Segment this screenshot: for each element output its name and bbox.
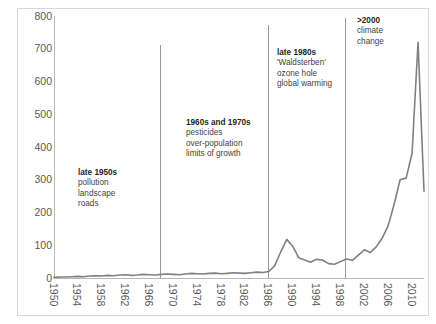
x-axis-tick-1994: 1994 bbox=[310, 283, 321, 294]
annotation-line: climate bbox=[357, 26, 384, 36]
annotation-1960s-1970s: 1960s and 1970spesticidesover-population… bbox=[186, 118, 251, 160]
annotation-heading: late 1980s bbox=[277, 48, 332, 58]
x-axis-tick-2006: 2006 bbox=[382, 283, 393, 294]
annotation-line: ozone hole bbox=[277, 69, 332, 79]
annotation-line: change bbox=[357, 37, 384, 47]
annotation-line: pollution bbox=[78, 178, 117, 188]
x-axis-tick-1998: 1998 bbox=[334, 283, 345, 294]
x-axis-tick-1950: 1950 bbox=[48, 283, 59, 294]
divider-1999 bbox=[345, 18, 346, 278]
chart-container: 8007006005004003002001000 19501954195819… bbox=[0, 0, 436, 324]
annotation-line: landscape bbox=[78, 189, 117, 199]
x-axis-tick-1982: 1982 bbox=[238, 283, 249, 294]
annotation-line: global warming bbox=[277, 79, 332, 89]
annotation-line: over-population bbox=[186, 139, 251, 149]
annotation-line: limits of growth bbox=[186, 149, 251, 159]
x-axis-tick-2002: 2002 bbox=[358, 283, 369, 294]
x-axis-tick-1962: 1962 bbox=[119, 283, 130, 294]
annotation-after-2000: >2000climatechange bbox=[357, 16, 384, 47]
divider-1986 bbox=[268, 25, 269, 278]
x-axis-tick-1966: 1966 bbox=[143, 283, 154, 294]
divider-1970 bbox=[160, 45, 161, 278]
annotation-line: roads bbox=[78, 199, 117, 209]
annotation-late-1980s: late 1980s'Waldsterben'ozone holeglobal … bbox=[277, 48, 332, 90]
annotation-late-1950s: late 1950spollutionlandscaperoads bbox=[78, 168, 117, 210]
x-axis-tick-1990: 1990 bbox=[286, 283, 297, 294]
x-axis-tick-2010: 2010 bbox=[406, 283, 417, 294]
annotation-heading: >2000 bbox=[357, 16, 384, 26]
annotation-line: pesticides bbox=[186, 128, 251, 138]
annotation-line: 'Waldsterben' bbox=[277, 58, 332, 68]
x-axis-tick-1974: 1974 bbox=[191, 283, 202, 294]
x-axis-tick-labels: 1950195419581962196619701974197819821986… bbox=[0, 0, 436, 324]
x-axis-tick-1954: 1954 bbox=[71, 283, 82, 294]
annotation-heading: late 1950s bbox=[78, 168, 117, 178]
x-axis-tick-1958: 1958 bbox=[95, 283, 106, 294]
x-axis-tick-1986: 1986 bbox=[262, 283, 273, 294]
x-axis-tick-1970: 1970 bbox=[167, 283, 178, 294]
x-axis-tick-1978: 1978 bbox=[215, 283, 226, 294]
annotation-heading: 1960s and 1970s bbox=[186, 118, 251, 128]
